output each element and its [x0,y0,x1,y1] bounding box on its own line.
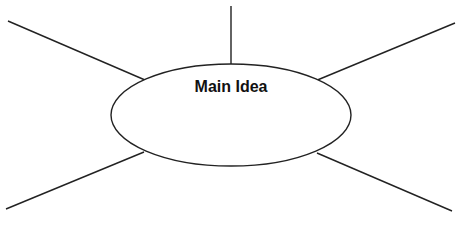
diagram-graphics [0,0,458,225]
spider-map-diagram: Main Idea [0,0,458,225]
branch-bottom-left-line [6,152,144,209]
main-idea-label: Main Idea [0,78,458,96]
branch-bottom-right-line [317,153,452,211]
branch-top-right-line [315,23,455,81]
branch-top-left-line [8,21,145,80]
